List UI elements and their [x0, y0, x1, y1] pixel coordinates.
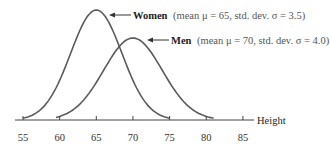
x-tick-label: 55	[18, 132, 29, 143]
women-legend: Women (mean μ = 65, std. dev. σ = 3.5)	[133, 10, 306, 22]
women-detail: (mean μ = 65, std. dev. σ = 3.5)	[173, 10, 306, 22]
men-name: Men	[171, 35, 192, 46]
x-tick-label: 85	[238, 132, 249, 143]
x-axis-label: Height	[257, 115, 286, 126]
x-tick-label: 65	[91, 132, 102, 143]
men-detail: (mean μ = 70, std. dev. σ = 4.0)	[197, 35, 330, 47]
x-tick-label: 70	[128, 132, 139, 143]
men-arrow-head	[147, 38, 153, 43]
men-legend: Men (mean μ = 70, std. dev. σ = 4.0)	[171, 35, 330, 47]
women-curve	[23, 10, 170, 118]
x-tick-label: 75	[164, 132, 175, 143]
x-tick-label: 80	[201, 132, 212, 143]
women-arrow-head	[109, 13, 115, 18]
women-name: Women	[133, 10, 168, 21]
normal-distribution-chart: 55606570758085 Height Women (mean μ = 65…	[0, 0, 330, 149]
men-curve	[56, 38, 214, 118]
x-tick-label: 60	[54, 132, 65, 143]
